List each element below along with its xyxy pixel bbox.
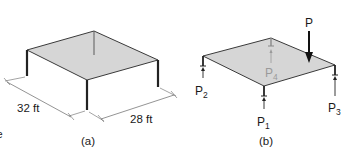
reaction-arrow-p2 bbox=[201, 67, 205, 78]
figure-b: P2 P1 P3 P4 P (b) bbox=[195, 16, 341, 147]
dimension-28ft: 28 ft bbox=[89, 88, 177, 125]
support-right-b bbox=[332, 65, 338, 75]
figure-a: 32 ft 28 ft (a) bbox=[4, 31, 177, 147]
reaction-label-p3: P3 bbox=[328, 101, 341, 117]
dimension-32ft: 32 ft bbox=[4, 77, 85, 120]
edge-mark: e bbox=[0, 129, 3, 140]
reaction-label-p2: P2 bbox=[195, 84, 208, 100]
caption-b: (b) bbox=[259, 135, 273, 147]
caption-a: (a) bbox=[81, 135, 95, 147]
dim-label-28ft: 28 ft bbox=[130, 113, 153, 125]
reaction-arrow-p3 bbox=[333, 76, 337, 96]
support-front-b bbox=[261, 86, 267, 96]
slab-a bbox=[27, 31, 158, 80]
reaction-label-p1: P1 bbox=[257, 115, 270, 131]
dim-label-32ft: 32 ft bbox=[17, 102, 40, 114]
load-label-p: P bbox=[305, 16, 313, 30]
diagram-canvas: 32 ft 28 ft (a) e bbox=[0, 0, 348, 163]
reaction-arrow-p1 bbox=[262, 97, 266, 109]
